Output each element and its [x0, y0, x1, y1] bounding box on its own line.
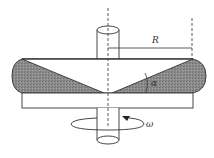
- cone-sample-band: [12, 59, 206, 93]
- angular-velocity-label: ω: [146, 119, 154, 129]
- cone-plate-diagram: α ω R: [0, 0, 214, 158]
- bottom-plate: [22, 93, 193, 108]
- angle-label: α: [151, 78, 157, 88]
- rotation-arrow-icon: [122, 116, 130, 121]
- radius-label: R: [151, 35, 159, 45]
